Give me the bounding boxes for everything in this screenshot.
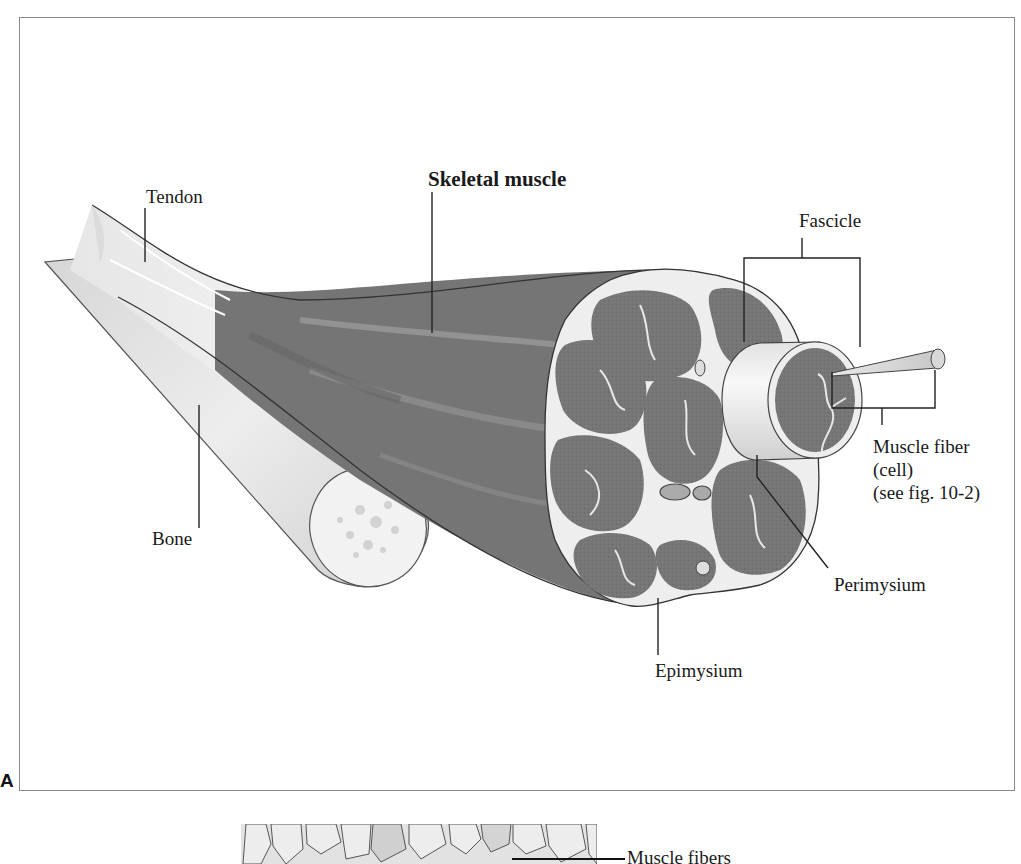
label-muscle-fibers: Muscle fibers [627,847,731,864]
label-epimysium: Epimysium [655,660,743,682]
label-muscle-fiber-ref: (see fig. 10-2) [873,482,980,504]
label-skeletal-muscle: Skeletal muscle [428,168,566,190]
micrograph-muscle-fibers [241,824,597,864]
label-muscle-fiber: Muscle fiber [873,436,970,458]
label-perimysium: Perimysium [834,574,926,596]
label-bone: Bone [152,528,192,550]
fascicle-cylinder [722,342,862,460]
micrograph-cells [241,824,597,864]
label-fascicle: Fascicle [799,210,861,232]
panel-letter-a: A [0,770,14,792]
muscle-illustration [0,0,1021,864]
label-muscle-fiber-cell: (cell) [873,459,913,481]
label-tendon: Tendon [146,186,203,208]
